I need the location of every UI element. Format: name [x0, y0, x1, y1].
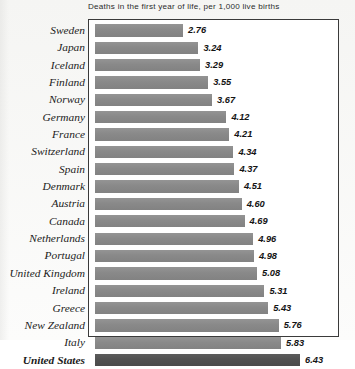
category-label: Switzerland — [31, 143, 85, 160]
category-label: Germany — [43, 109, 85, 126]
bar-track: 3.29 — [95, 59, 345, 71]
category-label: Canada — [49, 213, 85, 230]
bar-value-label: 4.12 — [231, 111, 249, 123]
category-label: Portugal — [44, 247, 85, 264]
category-label: France — [52, 126, 85, 143]
category-label: Norway — [49, 91, 85, 108]
bar-row: Japan3.24 — [0, 39, 355, 56]
bar-value-label: 3.55 — [213, 76, 231, 88]
bar-value-label: 5.83 — [286, 337, 304, 349]
bar-track: 4.34 — [95, 146, 345, 158]
bar-value-label: 5.08 — [262, 267, 280, 279]
bar — [95, 146, 233, 158]
bar-value-label: 4.98 — [259, 250, 277, 262]
bar-row: Italy5.83 — [0, 334, 355, 351]
bar-row: Spain4.37 — [0, 161, 355, 178]
bar-track: 3.24 — [95, 42, 345, 54]
bar-value-label: 4.37 — [239, 163, 257, 175]
bar-value-label: 3.67 — [217, 94, 235, 106]
bar-value-label: 4.96 — [258, 233, 276, 245]
bar-track: 3.67 — [95, 94, 345, 106]
bar-value-label: 6.43 — [305, 354, 323, 366]
bar-row: Sweden2.76 — [0, 22, 355, 39]
bar-track: 5.43 — [95, 302, 345, 314]
bar-track: 4.98 — [95, 250, 345, 262]
bar — [95, 59, 200, 71]
bar-track: 5.76 — [95, 319, 345, 331]
bar-row: United States6.43 — [0, 352, 355, 369]
bar-track: 4.69 — [95, 215, 345, 227]
bar-value-label: 4.60 — [247, 198, 265, 210]
bar-track: 5.08 — [95, 267, 345, 279]
category-label: Sweden — [50, 22, 85, 39]
bar — [95, 215, 245, 227]
bar — [95, 319, 279, 331]
bar-value-label: 5.43 — [273, 302, 291, 314]
bar-row: Norway3.67 — [0, 91, 355, 108]
bar — [95, 76, 208, 88]
bar — [95, 250, 254, 262]
bar-row: Switzerland4.34 — [0, 143, 355, 160]
bar-track: 2.76 — [95, 24, 345, 36]
bar-row: Austria4.60 — [0, 195, 355, 212]
bar-track: 3.55 — [95, 76, 345, 88]
bar-track: 4.60 — [95, 198, 345, 210]
category-label: Spain — [59, 161, 85, 178]
bar-track: 4.37 — [95, 163, 345, 175]
category-label: Netherlands — [29, 230, 85, 247]
bar — [95, 302, 268, 314]
bar-track: 4.51 — [95, 180, 345, 192]
bar — [95, 233, 253, 245]
category-label: United Kingdom — [9, 265, 85, 282]
category-label: Austria — [51, 195, 85, 212]
bar-value-label: 2.76 — [188, 24, 206, 36]
category-label: Italy — [64, 334, 85, 351]
bar-value-label: 3.24 — [203, 42, 221, 54]
bar — [95, 94, 212, 106]
bar-row: Ireland5.31 — [0, 282, 355, 299]
bar-row: New Zealand5.76 — [0, 317, 355, 334]
bar-value-label: 4.21 — [234, 128, 252, 140]
bar — [95, 198, 242, 210]
category-label: Ireland — [52, 282, 85, 299]
bar-track: 4.12 — [95, 111, 345, 123]
bar-row: Portugal4.98 — [0, 247, 355, 264]
chart-title: Deaths in the first year of life, per 1,… — [88, 2, 279, 11]
bar-row: Denmark4.51 — [0, 178, 355, 195]
bar-value-label: 3.29 — [205, 59, 223, 71]
bar-row: Greece5.43 — [0, 300, 355, 317]
category-label: Iceland — [51, 57, 85, 74]
bar — [95, 128, 229, 140]
bar-value-label: 4.69 — [250, 215, 268, 227]
bar-row: France4.21 — [0, 126, 355, 143]
bar-row: Iceland3.29 — [0, 57, 355, 74]
bar-value-label: 5.76 — [284, 319, 302, 331]
bar — [95, 267, 257, 279]
bar-value-label: 4.51 — [244, 180, 262, 192]
bar — [95, 180, 239, 192]
bar-track: 4.96 — [95, 233, 345, 245]
bar-row: Finland3.55 — [0, 74, 355, 91]
bar — [95, 24, 183, 36]
bar-row: Canada4.69 — [0, 213, 355, 230]
bar-row: Germany4.12 — [0, 109, 355, 126]
category-label: Japan — [57, 39, 85, 56]
bar-track: 5.31 — [95, 285, 345, 297]
bar-track: 4.21 — [95, 128, 345, 140]
bar-row: United Kingdom5.08 — [0, 265, 355, 282]
category-label: United States — [23, 352, 85, 369]
category-label: Greece — [53, 300, 85, 317]
bar-track: 6.43 — [95, 354, 345, 366]
bar — [95, 337, 281, 349]
bar-track: 5.83 — [95, 337, 345, 349]
bar — [95, 163, 234, 175]
bar — [95, 354, 300, 366]
bar — [95, 111, 226, 123]
category-label: Finland — [49, 74, 85, 91]
category-label: Denmark — [43, 178, 85, 195]
bar-value-label: 5.31 — [269, 285, 287, 297]
category-label: New Zealand — [25, 317, 85, 334]
bar-rows: Sweden2.76Japan3.24Iceland3.29Finland3.5… — [0, 22, 355, 336]
bar-value-label: 4.34 — [238, 146, 256, 158]
